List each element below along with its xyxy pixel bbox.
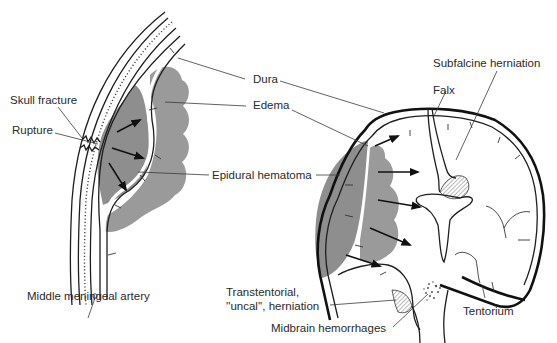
label-rupture: Rupture <box>12 124 53 136</box>
label-epidural-hematoma: Epidural hematoma <box>212 169 312 181</box>
label-tentorium: Tentorium <box>463 305 514 317</box>
leader-dura-right <box>280 81 384 113</box>
rupture-zigzag <box>80 145 99 151</box>
leader-subfalcine <box>456 71 497 160</box>
label-edema: Edema <box>253 99 290 111</box>
leader-transtentorial <box>330 300 396 305</box>
pressure-arrow-4 <box>375 136 398 146</box>
left-panel-closeup <box>71 12 190 305</box>
label-skull-fracture: Skull fracture <box>10 94 77 106</box>
label-dura: Dura <box>253 73 279 85</box>
brainstem <box>412 290 448 343</box>
label-transtentorial-line2: ''uncal'', herniation <box>226 300 319 312</box>
leader-skull-fracture <box>58 107 82 138</box>
label-midbrain-hemorrhages: Midbrain hemorrhages <box>271 322 386 334</box>
label-subfalcine-herniation: Subfalcine herniation <box>433 57 540 69</box>
epidural-hematoma-diagram: Skull fracture Rupture Middle meningeal … <box>0 0 557 343</box>
leader-dura-left <box>178 58 245 79</box>
label-middle-meningeal-artery: Middle meningeal artery <box>27 290 150 302</box>
midbrain-hemorrhages-specks <box>423 281 441 301</box>
leader-edema-right <box>292 110 368 146</box>
label-falx: Falx <box>433 84 455 96</box>
label-transtentorial-line1: Transtentorial, <box>226 286 299 298</box>
uncal-herniation-area <box>392 290 412 313</box>
ventricle <box>416 194 472 262</box>
